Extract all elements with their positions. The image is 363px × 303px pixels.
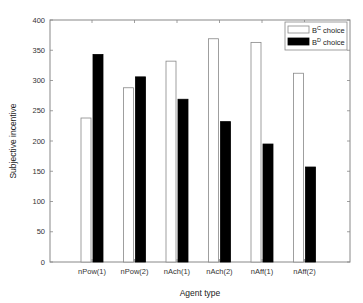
y-axis-title: Subjective incentive bbox=[8, 103, 18, 178]
y-tick-label: 350 bbox=[32, 46, 45, 55]
bar-bc-naff2 bbox=[294, 73, 304, 262]
bar-bd-naff1 bbox=[263, 144, 273, 262]
y-tick-label: 200 bbox=[32, 137, 45, 146]
legend-label-bc: BC choice bbox=[312, 25, 345, 35]
y-tick-label: 400 bbox=[32, 16, 45, 25]
bar-bc-naff1 bbox=[251, 42, 261, 262]
bar-bc-npow1 bbox=[81, 118, 91, 262]
bar-bd-naff2 bbox=[306, 167, 316, 262]
legend-swatch-bc bbox=[288, 26, 309, 33]
x-tick-label: nAff(1) bbox=[251, 267, 274, 276]
y-tick-label: 250 bbox=[32, 106, 45, 115]
bar-bc-npow2 bbox=[124, 88, 134, 262]
legend-swatch-bd bbox=[288, 38, 309, 45]
bar-bd-nach1 bbox=[178, 99, 188, 262]
x-tick-label: nPow(2) bbox=[121, 267, 149, 276]
y-tick-label: 0 bbox=[41, 258, 45, 267]
bar-bc-nach1 bbox=[166, 61, 176, 262]
bar-chart: 050100150200250300350400 nPow(1)nPow(2)n… bbox=[0, 0, 363, 303]
y-tick-label: 300 bbox=[32, 76, 45, 85]
bar-bd-nach2 bbox=[221, 122, 231, 262]
x-axis-title: Agent type bbox=[180, 288, 221, 298]
legend-label-bd: BD choice bbox=[312, 37, 345, 47]
bar-bc-nach2 bbox=[209, 39, 219, 262]
y-tick-label: 100 bbox=[32, 197, 45, 206]
x-tick-label: nAch(1) bbox=[164, 267, 191, 276]
bar-bd-npow2 bbox=[136, 77, 146, 262]
x-tick-label: nPow(1) bbox=[78, 267, 106, 276]
y-tick-label: 50 bbox=[37, 227, 45, 236]
x-tick-label: nAff(2) bbox=[293, 267, 316, 276]
legend: BC choiceBD choice bbox=[285, 22, 347, 50]
y-tick-label: 150 bbox=[32, 167, 45, 176]
x-tick-label: nAch(2) bbox=[206, 267, 233, 276]
bar-bd-npow1 bbox=[93, 54, 103, 262]
